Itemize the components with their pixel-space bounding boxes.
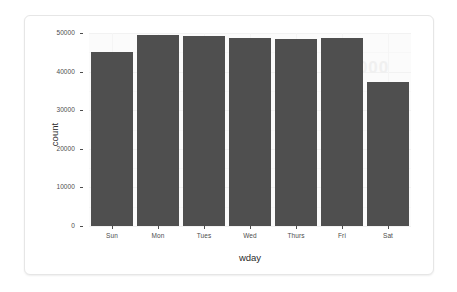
- x-tick-mark: [250, 226, 251, 229]
- y-tick-mark: [80, 149, 83, 150]
- x-tick-label-sat: Sat: [363, 232, 413, 240]
- plot-panel: 51000: [89, 33, 411, 226]
- y-tick-mark: [80, 187, 83, 188]
- y-tick-mark: [80, 33, 83, 34]
- x-tick-label-wed: Wed: [225, 232, 275, 240]
- y-tick-label: 40000: [56, 68, 75, 76]
- bar-thurs: [275, 39, 316, 226]
- bar-sat: [367, 82, 408, 226]
- x-tick-label-fri: Fri: [317, 232, 367, 240]
- bar-mon: [137, 35, 178, 226]
- y-axis-title: count: [49, 123, 60, 146]
- x-axis-title: wday: [89, 252, 411, 263]
- bar-tues: [183, 36, 224, 226]
- screenshot-root: 51000 01000020000300004000050000 SunMonT…: [0, 0, 457, 292]
- x-tick-label-thurs: Thurs: [271, 232, 321, 240]
- x-tick-mark: [112, 226, 113, 229]
- x-tick-mark: [204, 226, 205, 229]
- bar-wed: [229, 38, 270, 226]
- bar-chart-figure: 51000 01000020000300004000050000 SunMonT…: [25, 16, 435, 276]
- y-tick-mark: [80, 110, 83, 111]
- x-tick-label-mon: Mon: [133, 232, 183, 240]
- x-tick-mark: [388, 226, 389, 229]
- y-tick-label: 30000: [56, 106, 75, 114]
- x-tick-mark: [158, 226, 159, 229]
- bar-fri: [321, 38, 362, 226]
- x-tick-mark: [296, 226, 297, 229]
- y-tick-label: 10000: [56, 183, 75, 191]
- y-tick-label: 50000: [56, 29, 75, 37]
- bar-sun: [91, 52, 132, 226]
- x-tick-label-tues: Tues: [179, 232, 229, 240]
- y-tick-mark: [80, 226, 83, 227]
- bar-series: [89, 33, 411, 226]
- x-tick-label-sun: Sun: [87, 232, 137, 240]
- x-tick-mark: [342, 226, 343, 229]
- y-tick-label: 0: [71, 222, 75, 230]
- chart-card: 51000 01000020000300004000050000 SunMonT…: [24, 15, 434, 275]
- y-tick-mark: [80, 72, 83, 73]
